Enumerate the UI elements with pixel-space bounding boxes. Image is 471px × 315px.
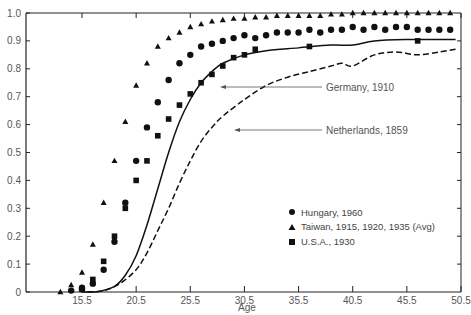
legend-triangle-icon xyxy=(289,224,296,230)
hungary-point xyxy=(198,43,204,49)
hungary-point xyxy=(393,24,399,30)
hungary-point xyxy=(371,24,377,30)
usa-point xyxy=(177,102,183,108)
hungary-point xyxy=(328,27,334,33)
taiwan-point xyxy=(252,14,258,19)
usa-point xyxy=(101,259,107,265)
usa-point xyxy=(209,72,215,78)
x-tick-label: 45.5 xyxy=(397,295,417,306)
usa-point xyxy=(242,52,248,58)
hungary-point xyxy=(306,27,312,33)
taiwan-point xyxy=(339,11,345,16)
taiwan-point xyxy=(209,18,215,23)
usa-point xyxy=(133,178,139,184)
hungary-point xyxy=(350,24,356,30)
y-tick-label: 0.5 xyxy=(7,147,21,158)
hungary-point xyxy=(360,27,366,33)
usa-point xyxy=(112,233,118,239)
hungary-point xyxy=(100,266,106,272)
taiwan-point xyxy=(90,241,96,246)
hungary-point xyxy=(317,29,323,35)
taiwan-point xyxy=(155,43,161,48)
hungary-point xyxy=(68,287,74,293)
taiwan-point xyxy=(198,21,204,26)
y-tick-label: 0.1 xyxy=(7,259,21,270)
hungary-point xyxy=(382,27,388,33)
usa-point xyxy=(198,80,204,86)
hungary-point xyxy=(274,29,280,35)
hungary-point xyxy=(144,124,150,130)
taiwan-point xyxy=(144,60,150,65)
annotations: Germany, 1910 Netherlands, 1859 xyxy=(220,82,408,136)
taiwan-point xyxy=(133,82,139,87)
usa-point xyxy=(123,206,129,212)
taiwan-point xyxy=(328,11,334,16)
usa-point xyxy=(415,38,421,44)
legend-label-hungary: Hungary, 1960 xyxy=(301,207,363,218)
hungary-point xyxy=(209,40,215,46)
hungary-point xyxy=(133,158,139,164)
y-tick-label: 0.8 xyxy=(7,63,21,74)
hungary-point xyxy=(111,239,117,245)
y-tick-label: 0.6 xyxy=(7,119,21,130)
x-tick-label: 35.5 xyxy=(289,295,309,306)
taiwan-point xyxy=(241,15,247,20)
usa-point xyxy=(220,63,226,69)
legend: Hungary, 1960 Taiwan, 1915, 1920, 1935 (… xyxy=(289,207,435,247)
hungary-point xyxy=(241,32,247,38)
netherlands-arrowhead-icon xyxy=(234,128,240,132)
y-tick-label: 0.3 xyxy=(7,203,21,214)
hungary-point xyxy=(414,27,420,33)
hungary-point xyxy=(285,29,291,35)
hungary-point xyxy=(230,35,236,41)
hungary-point xyxy=(187,52,193,58)
germany-arrowhead-icon xyxy=(220,85,226,89)
hungary-point xyxy=(425,27,431,33)
netherlands-label: Netherlands, 1859 xyxy=(326,125,408,136)
taiwan-point xyxy=(187,24,193,29)
legend-label-usa: U.S.A., 1930 xyxy=(301,236,355,247)
taiwan-point xyxy=(79,269,85,274)
y-tick-label: 0 xyxy=(15,287,21,298)
x-tick-label: 15.5 xyxy=(72,295,92,306)
usa-point xyxy=(79,286,85,292)
taiwan-point xyxy=(176,29,182,34)
marriage-proportion-chart: 00.10.20.30.40.50.60.70.80.91.0 15.520.5… xyxy=(0,0,471,315)
netherlands-curve xyxy=(87,49,455,292)
x-axis-ticks: 15.520.525.530.535.540.545.550.5 xyxy=(72,13,471,306)
usa-point xyxy=(252,46,258,52)
x-axis-title: Age xyxy=(238,302,256,313)
x-tick-label: 25.5 xyxy=(181,295,201,306)
hungary-point xyxy=(404,24,410,30)
y-tick-label: 1.0 xyxy=(7,8,21,19)
usa-point xyxy=(307,44,313,50)
usa-point xyxy=(231,55,237,61)
taiwan-point xyxy=(122,119,128,124)
legend-square-icon xyxy=(289,239,295,245)
hungary-point xyxy=(339,27,345,33)
taiwan-point xyxy=(263,14,269,19)
x-tick-label: 40.5 xyxy=(343,295,363,306)
legend-label-taiwan: Taiwan, 1915, 1920, 1935 (Avg) xyxy=(301,221,435,232)
taiwan-point xyxy=(166,35,172,40)
y-tick-label: 0.4 xyxy=(7,175,21,186)
hungary-point xyxy=(447,27,453,33)
hungary-point xyxy=(165,77,171,83)
germany-curve xyxy=(82,39,456,292)
y-tick-label: 0.2 xyxy=(7,231,21,242)
x-tick-label: 20.5 xyxy=(126,295,146,306)
taiwan-point xyxy=(231,15,237,20)
y-axis-ticks: 00.10.20.30.40.50.60.70.80.91.0 xyxy=(7,8,461,298)
hungary-point xyxy=(220,38,226,44)
taiwan-point xyxy=(68,282,74,287)
legend-circle-icon xyxy=(289,209,295,215)
usa-point xyxy=(90,277,96,283)
x-tick-label: 50.5 xyxy=(451,295,471,306)
germany-label: Germany, 1910 xyxy=(326,82,395,93)
taiwan-point xyxy=(111,158,117,163)
y-tick-label: 0.9 xyxy=(7,35,21,46)
y-tick-label: 0.7 xyxy=(7,91,21,102)
hungary-point xyxy=(436,27,442,33)
taiwan-point xyxy=(220,17,226,22)
usa-point xyxy=(187,91,193,97)
